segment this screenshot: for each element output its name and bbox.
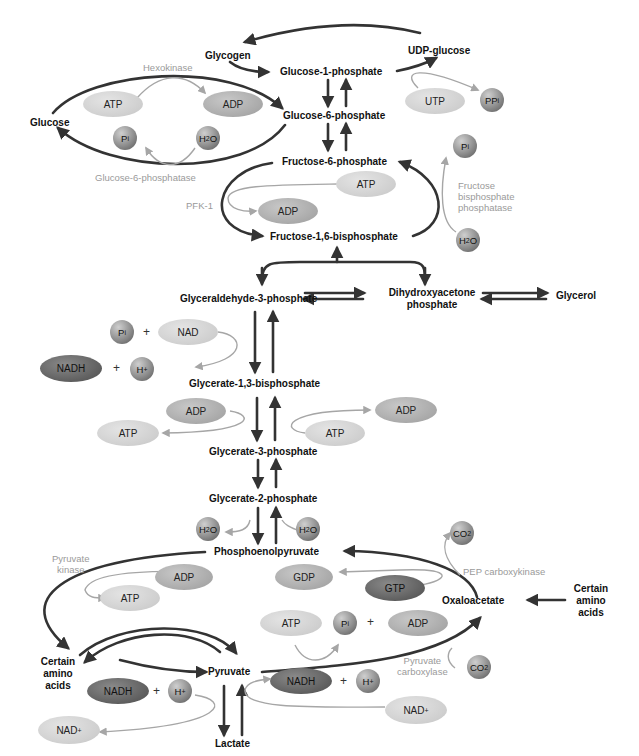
cofactor-gdp: GDP	[275, 564, 333, 590]
plus-sign: +	[113, 361, 120, 375]
amino-acids-left-line-2: amino	[33, 668, 83, 680]
node-lactate: Lactate	[215, 738, 250, 750]
nad-plus-left-charge: +	[78, 727, 82, 734]
cofactor-atp-pyruvate-carboxylase: ATP	[260, 610, 322, 636]
fbpase-line-2: bisphosphate	[458, 191, 515, 202]
nad-plus-right-charge: +	[425, 707, 429, 714]
cofactor-adp-pgk-left: ADP	[166, 398, 226, 424]
cofactor-nadh-gapdh: NADH	[40, 355, 102, 382]
co2-c: CO	[470, 662, 484, 673]
cofactor-h-plus-gapdh: H+	[130, 357, 154, 381]
cofactor-adp-pfk1: ADP	[258, 198, 318, 224]
pi-i: i	[127, 135, 129, 142]
co2-2: 2	[467, 530, 471, 537]
h2o-h: H	[459, 235, 466, 246]
node-glycerate-1-3-bisphosphate: Glycerate-1,3-bisphosphate	[189, 378, 320, 390]
node-glucose: Glucose	[30, 117, 69, 129]
pyruvate-carboxylase-line-2: carboxylase	[397, 666, 448, 677]
cofactor-h2o-fbpase: H2O	[456, 228, 480, 252]
h-text: H	[363, 676, 370, 687]
node-pyruvate: Pyruvate	[208, 666, 250, 678]
cofactor-adp-pgk-right: ADP	[375, 397, 437, 423]
cofactor-atp-pyruvate-kinase: ATP	[100, 585, 160, 611]
cofactor-co2-pepck: CO2	[450, 521, 474, 545]
enzyme-pyruvate-kinase: Pyruvate kinase	[52, 553, 90, 575]
dhap-line-1: Dihydroxyacetone	[382, 287, 482, 299]
node-certain-amino-acids-right: Certain amino acids	[566, 583, 616, 619]
node-glycerate-3-phosphate: Glycerate-3-phosphate	[209, 446, 317, 458]
h-charge: +	[181, 688, 185, 695]
node-glyceraldehyde-3-phosphate: Glyceraldehyde-3-phosphate	[180, 293, 317, 305]
node-certain-amino-acids-left: Certain amino acids	[33, 656, 83, 692]
cofactor-nad-plus-right: NAD+	[385, 696, 447, 724]
pyruvate-kinase-line-2: kinase	[52, 564, 90, 575]
pi-i: i	[467, 143, 469, 150]
amino-acids-right-line-3: acids	[566, 607, 616, 619]
node-fructose-6-phosphate: Fructose-6-phosphate	[282, 156, 387, 168]
h-text: H	[175, 686, 182, 697]
cofactor-adp-hexokinase: ADP	[203, 91, 263, 117]
cofactor-h2o-g6pase: H2O	[196, 126, 220, 150]
node-phosphoenolpyruvate: Phosphoenolpyruvate	[214, 546, 319, 558]
node-fructose-1-6-bisphosphate: Fructose-1,6-bisphosphate	[270, 231, 398, 243]
co2-2: 2	[484, 664, 488, 671]
h-charge: +	[369, 678, 373, 685]
cofactor-gtp: GTP	[365, 575, 425, 601]
node-udp-glucose: UDP-glucose	[408, 45, 470, 57]
cofactor-ppi: PPi	[480, 88, 504, 112]
cofactor-h2o-enolase-right: H2O	[296, 517, 320, 541]
pyruvate-kinase-line-1: Pyruvate	[52, 553, 90, 564]
h2o-o: O	[310, 524, 317, 535]
nad-plus-right-text: NAD	[403, 705, 424, 716]
cofactor-pi-fbpase: Pi	[453, 134, 477, 158]
node-glucose-6-phosphate: Glucose-6-phosphate	[283, 110, 385, 122]
enzyme-pep-carboxykinase: PEP carboxykinase	[463, 566, 545, 577]
cofactor-nad-plus-left: NAD+	[38, 716, 100, 744]
cofactor-pi-gapdh: Pi	[110, 320, 134, 344]
plus-sign: +	[367, 615, 374, 629]
cofactor-nad: NAD	[158, 319, 218, 345]
h2o-h: H	[199, 524, 206, 535]
pyruvate-carboxylase-line-1: Pyruvate	[397, 655, 448, 666]
h2o-o: O	[210, 524, 217, 535]
cofactor-adp-pyruvate-kinase: ADP	[155, 564, 213, 590]
enzyme-fructose-bisphosphate-phosphatase: Fructose bisphosphate phosphatase	[458, 180, 515, 213]
node-glucose-1-phosphate: Glucose-1-phosphate	[280, 66, 382, 78]
cofactor-atp-hexokinase: ATP	[83, 91, 143, 117]
cofactor-nadh-right: NADH	[270, 668, 332, 694]
co2-c: CO	[453, 528, 467, 539]
h2o-o: O	[210, 133, 217, 144]
dhap-line-2: phosphate	[382, 299, 482, 311]
amino-acids-right-line-1: Certain	[566, 583, 616, 595]
amino-acids-left-line-1: Certain	[33, 656, 83, 668]
plus-sign: +	[340, 674, 347, 688]
fbpase-line-3: phosphatase	[458, 202, 515, 213]
node-glycerate-2-phosphate: Glycerate-2-phosphate	[209, 493, 317, 505]
cofactor-atp-pgk-right: ATP	[305, 420, 365, 446]
cofactor-atp-pfk1: ATP	[336, 171, 396, 197]
h2o-o: O	[470, 235, 477, 246]
node-dihydroxyacetone-phosphate: Dihydroxyacetone phosphate	[382, 287, 482, 311]
pi-i: i	[347, 620, 349, 627]
nad-plus-left-text: NAD	[56, 725, 77, 736]
pi-i: i	[124, 329, 126, 336]
amino-acids-right-line-2: amino	[566, 595, 616, 607]
cofactor-h-plus-ldh-left: H+	[168, 679, 192, 703]
cofactor-nadh-left: NADH	[87, 678, 149, 704]
cofactor-atp-pgk-left: ATP	[97, 420, 159, 446]
enzyme-hexokinase: Hexokinase	[143, 62, 193, 73]
fbpase-line-1: Fructose	[458, 180, 515, 191]
plus-sign: +	[143, 325, 150, 339]
cofactor-h2o-enolase-left: H2O	[196, 517, 220, 541]
cofactor-adp-pyruvate-carboxylase: ADP	[388, 610, 448, 636]
amino-acids-left-line-3: acids	[33, 680, 83, 692]
enzyme-glucose-6-phosphatase: Glucose-6-phosphatase	[95, 172, 196, 183]
plus-sign: +	[153, 684, 160, 698]
cofactor-utp: UTP	[405, 88, 465, 114]
enzyme-pfk-1: PFK-1	[186, 200, 213, 211]
h2o-h: H	[299, 524, 306, 535]
h-text: H	[137, 364, 144, 375]
ppi-pp: PP	[485, 95, 498, 106]
cofactor-pi-g6pase: Pi	[113, 126, 137, 150]
node-glycogen: Glycogen	[205, 50, 251, 62]
